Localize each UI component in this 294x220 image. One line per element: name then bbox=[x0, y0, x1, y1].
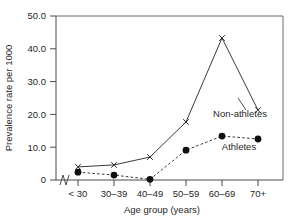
x-axis-title: Age group (years) bbox=[124, 204, 200, 215]
data-point-marker bbox=[183, 147, 190, 154]
y-axis-title: Prevalence rate per 1000 bbox=[3, 45, 14, 152]
x-axis-tick-labels: < 30 30–39 40–49 50–59 60–69 70+ bbox=[69, 188, 267, 199]
data-point-marker bbox=[183, 119, 189, 125]
x-axis-break-mark bbox=[60, 175, 69, 185]
data-point-marker bbox=[219, 35, 225, 41]
x-tick-label-50-59: 50–59 bbox=[173, 188, 199, 199]
frame-top-right bbox=[56, 16, 283, 180]
data-point-marker bbox=[75, 169, 82, 176]
y-axis-tick-labels: 0 10.0 20.0 30.0 40.0 50.0 bbox=[28, 10, 47, 185]
x-tick-label-under30: < 30 bbox=[69, 188, 88, 199]
data-point-marker bbox=[219, 133, 226, 140]
y-tick-label-50: 50.0 bbox=[28, 10, 47, 21]
x-tick-label-40-49: 40–49 bbox=[137, 188, 163, 199]
y-tick-label-30: 30.0 bbox=[28, 76, 47, 87]
series-label-athletes: Athletes bbox=[222, 141, 257, 152]
y-tick-label-10: 10.0 bbox=[28, 142, 47, 153]
y-tick-label-20: 20.0 bbox=[28, 109, 47, 120]
y-tick-label-40: 40.0 bbox=[28, 43, 47, 54]
series-label-non-athletes: Non-athletes bbox=[213, 108, 267, 119]
data-point-marker bbox=[147, 176, 154, 183]
x-tick-label-70plus: 70+ bbox=[250, 188, 267, 199]
prevalence-line-chart: 0 10.0 20.0 30.0 40.0 50.0 < 30 30–39 40… bbox=[0, 0, 294, 220]
chart-figure: 0 10.0 20.0 30.0 40.0 50.0 < 30 30–39 40… bbox=[0, 0, 294, 220]
y-axis-ticks bbox=[50, 16, 56, 180]
x-tick-label-30-39: 30–39 bbox=[101, 188, 127, 199]
y-tick-label-0: 0 bbox=[41, 174, 46, 185]
data-point-marker bbox=[111, 172, 118, 179]
x-tick-label-60-69: 60–69 bbox=[209, 188, 235, 199]
x-axis-ticks bbox=[78, 180, 258, 186]
plot-frame bbox=[56, 16, 283, 180]
